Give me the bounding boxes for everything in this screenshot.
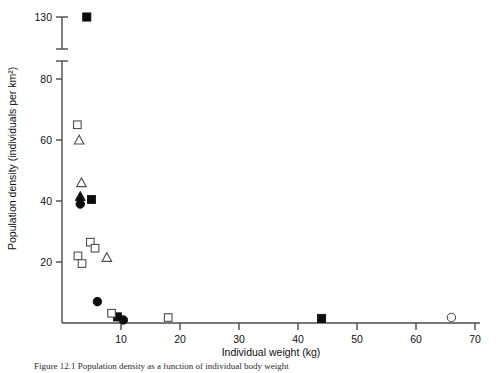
x-tick-40: 40: [292, 323, 304, 345]
data-point: [77, 178, 87, 187]
x-axis: 10 20 30 40 50: [62, 323, 481, 358]
y-tick-20: 20: [40, 256, 62, 268]
y-tick-label-60: 60: [40, 134, 52, 146]
plot-canvas: 130 80 60 40 20: [0, 0, 499, 373]
x-tick-label-60: 60: [410, 333, 422, 345]
data-point: [447, 313, 455, 321]
data-point: [318, 314, 326, 322]
y-axis-ticks: 80 60 40 20: [40, 73, 62, 268]
x-tick-label-20: 20: [174, 333, 186, 345]
y-tick-label-80: 80: [40, 73, 52, 85]
x-tick-70: 70: [469, 323, 481, 345]
x-tick-label-50: 50: [351, 333, 363, 345]
y-tick-label-40: 40: [40, 195, 52, 207]
data-point: [87, 195, 95, 203]
x-tick-30: 30: [233, 323, 245, 345]
series-open-circle: [447, 313, 455, 321]
x-tick-20: 20: [174, 323, 186, 345]
x-tick-label-30: 30: [233, 333, 245, 345]
y-axis-main-segment: [56, 61, 68, 323]
data-point: [119, 316, 128, 325]
series-filled-triangle: [75, 191, 85, 200]
x-tick-50: 50: [351, 323, 363, 345]
data-point: [74, 121, 82, 129]
data-point: [74, 252, 82, 260]
x-axis-title: Individual weight (kg): [222, 346, 321, 358]
series-filled-square: [83, 13, 326, 323]
x-tick-label-40: 40: [292, 333, 304, 345]
x-axis-ticks: 10 20 30 40 50: [115, 323, 481, 345]
data-marker-layer: [74, 13, 456, 324]
data-point: [76, 200, 85, 209]
data-point: [78, 260, 86, 268]
series-open-square: [74, 121, 172, 321]
x-tick-label-70: 70: [469, 333, 481, 345]
y-axis-title: Population density (individuals per km²): [6, 67, 18, 250]
scatter-plot-figure: 130 80 60 40 20: [0, 0, 499, 373]
y-tick-label-130: 130: [34, 11, 52, 23]
data-point: [74, 135, 84, 144]
y-tick-80: 80: [40, 73, 62, 85]
data-point: [164, 314, 172, 322]
data-point: [75, 191, 85, 200]
x-tick-10: 10: [115, 323, 127, 345]
x-tick-label-10: 10: [115, 333, 127, 345]
y-tick-40: 40: [40, 195, 62, 207]
data-point: [83, 13, 91, 21]
y-tick-label-20: 20: [40, 256, 52, 268]
y-tick-60: 60: [40, 134, 62, 146]
data-point: [108, 309, 116, 317]
data-point: [93, 297, 102, 306]
figure-caption: Figure 12.1 Population density as a func…: [34, 360, 474, 372]
figure-caption-text: Figure 12.1 Population density as a func…: [34, 361, 289, 371]
x-tick-60: 60: [410, 323, 422, 345]
y-axis-upper-segment: 130: [34, 11, 68, 49]
data-point: [102, 253, 112, 262]
data-point: [91, 244, 99, 252]
